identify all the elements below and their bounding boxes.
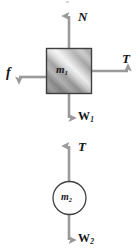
hanging-mass-subscript: 2 (69, 196, 72, 203)
weight-mass2-label: W2 (78, 232, 94, 244)
diagram-canvas (0, 0, 140, 252)
hanging-mass-label: m2 (61, 192, 72, 202)
block-mass-label: m1 (56, 64, 68, 75)
weight-block-label: W1 (78, 110, 94, 122)
friction-force-label: f (6, 66, 11, 80)
block-body (47, 49, 92, 94)
tension-mass2-label: T (78, 140, 86, 153)
free-body-diagram: N T f W1 T W2 m1 m2 (0, 0, 140, 252)
normal-force-label: N (78, 10, 87, 23)
tension-block-label: T (122, 52, 130, 65)
weight-mass2-subscript: 2 (90, 237, 94, 246)
scan-artifact (66, 1, 69, 3)
weight-block-subscript: 1 (90, 115, 94, 124)
block-mass-subscript: 1 (65, 69, 68, 76)
